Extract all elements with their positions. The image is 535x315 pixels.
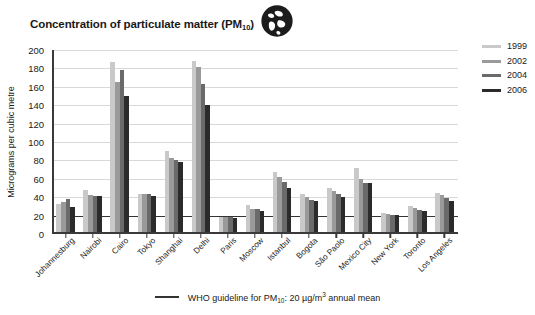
legend-swatch-2006 bbox=[482, 89, 501, 92]
bar-group bbox=[377, 50, 404, 234]
bar-group bbox=[323, 50, 350, 234]
x-axis-label: Cairo bbox=[110, 236, 130, 256]
x-axis-line bbox=[52, 232, 458, 234]
legend-label-2006: 2006 bbox=[507, 86, 527, 95]
x-axis-label: Bogota bbox=[295, 236, 320, 261]
bar bbox=[260, 211, 265, 234]
x-axis-label: Delhi bbox=[192, 236, 212, 256]
x-axis-label: Moscow bbox=[238, 236, 266, 264]
page-title: Concentration of particulate matter (PM1… bbox=[30, 18, 254, 30]
x-axis-label: Tokyo bbox=[136, 236, 157, 257]
x-axis-labels: JohannesburgNairobiCairoTokyoShanghaiDel… bbox=[52, 236, 458, 292]
bar-group bbox=[214, 50, 241, 234]
y-tick-label: 180 bbox=[28, 63, 44, 74]
bar bbox=[422, 211, 427, 234]
bar-group bbox=[106, 50, 133, 234]
x-axis-label: New York bbox=[370, 236, 401, 267]
y-tick-label: 0 bbox=[39, 229, 44, 240]
y-tick-label: 100 bbox=[28, 137, 44, 148]
x-axis-label: Johannesburg bbox=[33, 236, 76, 279]
bar bbox=[287, 188, 292, 234]
caption-main: WHO guideline for PM bbox=[188, 293, 278, 303]
bar bbox=[368, 183, 373, 234]
bar-group bbox=[350, 50, 377, 234]
legend-label-2004: 2004 bbox=[507, 71, 527, 80]
legend-swatch-2004 bbox=[482, 74, 501, 77]
legend-label-1999: 1999 bbox=[507, 42, 527, 51]
x-axis-label: Nairobi bbox=[78, 236, 103, 261]
bar bbox=[70, 207, 75, 234]
bar bbox=[205, 105, 210, 234]
bar-group bbox=[133, 50, 160, 234]
legend-item: 1999 bbox=[482, 42, 527, 51]
bar-group bbox=[160, 50, 187, 234]
bar-group bbox=[79, 50, 106, 234]
title-row: Concentration of particulate matter (PM1… bbox=[30, 10, 294, 38]
bar-group bbox=[269, 50, 296, 234]
bar bbox=[124, 96, 129, 234]
y-axis-line bbox=[52, 50, 54, 234]
y-tick-label: 120 bbox=[28, 118, 44, 129]
y-axis-ticks: 200180160140120100806040200 bbox=[0, 50, 48, 234]
chart-figure: Concentration of particulate matter (PM1… bbox=[0, 0, 535, 315]
bar bbox=[178, 162, 183, 234]
title-text: Concentration of particulate matter (PM bbox=[30, 18, 242, 30]
caption-rule-icon bbox=[155, 296, 179, 298]
x-axis-label: Istanbul bbox=[266, 236, 293, 263]
bar bbox=[151, 196, 156, 234]
title-tail: ) bbox=[250, 18, 254, 30]
bar bbox=[449, 201, 454, 234]
y-tick-label: 40 bbox=[33, 192, 44, 203]
y-tick-label: 140 bbox=[28, 100, 44, 111]
legend-swatch-1999 bbox=[482, 45, 501, 48]
bar-group bbox=[431, 50, 458, 234]
x-axis-label: Toronto bbox=[402, 236, 428, 262]
x-axis-label: Shanghai bbox=[153, 236, 184, 267]
legend-item: 2004 bbox=[482, 71, 527, 80]
plot-area bbox=[52, 50, 458, 234]
caption-subscript: 10 bbox=[277, 297, 284, 304]
caption-tail: : 20 µg/m bbox=[284, 293, 322, 303]
legend-item: 2006 bbox=[482, 86, 527, 95]
legend-label-2002: 2002 bbox=[507, 57, 527, 66]
legend-item: 2002 bbox=[482, 57, 527, 66]
who-guideline-caption: WHO guideline for PM10: 20 µg/m3 annual … bbox=[0, 291, 535, 303]
legend: 1999 2002 2004 2006 bbox=[482, 42, 527, 95]
y-tick-label: 80 bbox=[33, 155, 44, 166]
caption-text: WHO guideline for PM10: 20 µg/m3 annual … bbox=[188, 291, 381, 303]
globe-icon bbox=[260, 4, 294, 38]
caption-end: annual mean bbox=[326, 293, 381, 303]
y-tick-label: 20 bbox=[33, 210, 44, 221]
legend-swatch-2002 bbox=[482, 60, 501, 63]
bar-groups bbox=[52, 50, 458, 234]
bar bbox=[341, 197, 346, 234]
bar-group bbox=[52, 50, 79, 234]
title-subscript: 10 bbox=[242, 23, 250, 32]
y-tick-label: 200 bbox=[28, 45, 44, 56]
x-axis-label: Paris bbox=[219, 236, 239, 256]
bar-group bbox=[241, 50, 268, 234]
y-tick-label: 160 bbox=[28, 81, 44, 92]
bar bbox=[97, 196, 102, 234]
bar-group bbox=[187, 50, 214, 234]
bar-group bbox=[296, 50, 323, 234]
bar bbox=[314, 201, 319, 234]
bar-group bbox=[404, 50, 431, 234]
y-tick-label: 60 bbox=[33, 173, 44, 184]
